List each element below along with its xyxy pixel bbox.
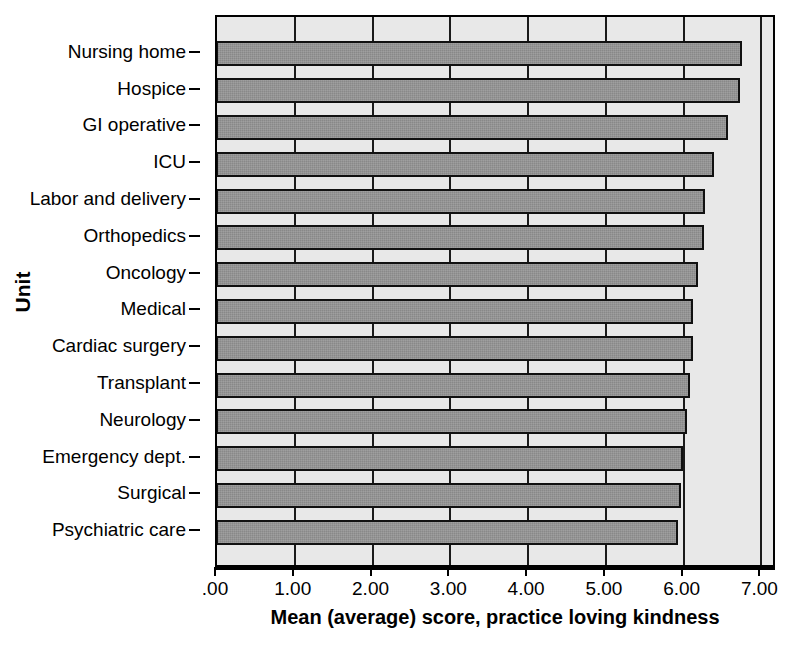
x-axis-tick-mark xyxy=(603,567,605,576)
bar xyxy=(216,115,728,140)
bar-chart: Unit Nursing homeHospiceGI operativeICUL… xyxy=(0,0,795,649)
x-axis-tick-label: 1.00 xyxy=(253,578,333,600)
x-axis-tick-label: 2.00 xyxy=(331,578,411,600)
y-axis-tick-label: Cardiac surgery xyxy=(52,336,186,356)
x-axis-tick-label: .00 xyxy=(175,578,255,600)
bar xyxy=(216,41,742,66)
bar xyxy=(216,262,698,287)
y-axis-tick-mark xyxy=(189,308,200,310)
y-axis-tick-mark xyxy=(189,124,200,126)
y-axis-tick-label: Emergency dept. xyxy=(42,447,186,467)
y-axis-tick-mark xyxy=(189,529,200,531)
y-axis-tick-mark xyxy=(189,235,200,237)
x-axis-title: Mean (average) score, practice loving ki… xyxy=(215,606,775,629)
y-axis-tick-labels: Nursing homeHospiceGI operativeICULabor … xyxy=(0,15,200,567)
x-axis-tick-mark xyxy=(370,567,372,576)
y-axis-tick-label: Transplant xyxy=(97,373,186,393)
y-axis-tick-label: Nursing home xyxy=(68,42,186,62)
y-axis-tick-mark xyxy=(189,272,200,274)
bar xyxy=(216,373,690,398)
y-axis-tick-label: Surgical xyxy=(117,483,186,503)
x-axis-tick-label: 5.00 xyxy=(564,578,644,600)
bar xyxy=(216,409,687,434)
gridline-x-7 xyxy=(760,17,762,565)
x-axis-line xyxy=(215,567,775,570)
bar xyxy=(216,189,705,214)
bar xyxy=(216,78,740,103)
x-axis-tick-label: 4.00 xyxy=(486,578,566,600)
x-axis-tick-mark xyxy=(758,567,760,576)
y-axis-tick-mark xyxy=(189,345,200,347)
y-axis-tick-label: Neurology xyxy=(99,410,186,430)
y-axis-tick-label: Hospice xyxy=(117,79,186,99)
y-axis-tick-label: ICU xyxy=(153,152,186,172)
y-axis-tick-mark xyxy=(189,492,200,494)
y-axis-tick-mark xyxy=(189,161,200,163)
x-axis-tick-mark xyxy=(681,567,683,576)
x-axis-tick-mark xyxy=(447,567,449,576)
bar xyxy=(216,152,714,177)
bar xyxy=(216,483,681,508)
y-axis-tick-mark xyxy=(189,51,200,53)
y-axis-tick-label: Labor and delivery xyxy=(30,189,186,209)
bar xyxy=(216,336,693,361)
y-axis-tick-label: Medical xyxy=(121,299,186,319)
y-axis-tick-mark xyxy=(189,456,200,458)
bar xyxy=(216,225,704,250)
y-axis-tick-label: Psychiatric care xyxy=(52,520,186,540)
plot-area xyxy=(215,15,775,567)
y-axis-tick-mark xyxy=(189,419,200,421)
y-axis-tick-mark xyxy=(189,88,200,90)
y-axis-tick-label: Orthopedics xyxy=(84,226,186,246)
x-axis-tick-label: 6.00 xyxy=(642,578,722,600)
x-axis-tick-mark xyxy=(214,567,216,576)
bar xyxy=(216,446,683,471)
x-axis-tick-label: 3.00 xyxy=(408,578,488,600)
x-axis-tick-label: 7.00 xyxy=(719,578,795,600)
y-axis-tick-label: Oncology xyxy=(106,263,186,283)
y-axis-tick-mark xyxy=(189,198,200,200)
x-axis-tick-mark xyxy=(525,567,527,576)
x-axis-tick-mark xyxy=(292,567,294,576)
bar xyxy=(216,299,693,324)
y-axis-tick-mark xyxy=(189,382,200,384)
bar xyxy=(216,520,678,545)
y-axis-tick-label: GI operative xyxy=(83,115,187,135)
